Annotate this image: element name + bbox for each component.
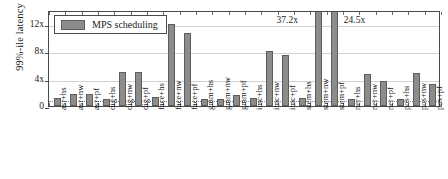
- x-tick-label: imc+hs: [255, 85, 264, 110]
- x-tick-label: stem+nw: [321, 78, 330, 110]
- x-tick-label: stem+hs: [304, 81, 313, 110]
- x-tick-label: ner+hs: [353, 87, 362, 110]
- y-tick: [45, 108, 49, 109]
- y-tick-label: 12x: [0, 20, 44, 30]
- legend: MPS scheduling: [54, 15, 167, 34]
- x-tick-label: dig+pf: [141, 87, 150, 110]
- x-tick-label: pos+pf: [435, 86, 444, 110]
- x-tick-label: asr+hs: [59, 87, 68, 110]
- bar-value-annotation: 37.2x: [277, 15, 298, 25]
- x-tick-label: gmm+nw: [223, 77, 232, 110]
- x-tick-label: imc+nw: [272, 82, 281, 110]
- x-tick-label: dig+nw: [125, 84, 134, 110]
- x-tick-label: ner+pf: [386, 87, 395, 110]
- top-frame-tick: [441, 12, 442, 15]
- x-tick-label: gmm+hs: [206, 80, 215, 110]
- legend-label-mps: MPS scheduling: [92, 20, 158, 30]
- y-tick-label: 8x: [0, 47, 44, 57]
- x-tick-label: pos+hs: [402, 86, 411, 110]
- x-tick-label: asr+nw: [76, 85, 85, 110]
- x-tick-label: stem+pf: [337, 82, 346, 110]
- legend-swatch-mps: [61, 20, 85, 30]
- x-tick-label: dig+hs: [108, 87, 117, 110]
- y-tick-label: 4x: [0, 75, 44, 85]
- chart-figure: 99%-ile latency 04x8x12x 37.2x24.5x MPS …: [0, 0, 448, 179]
- x-tick-label: gmm+pf: [239, 80, 248, 110]
- x-tick-label: ner+nw: [370, 84, 379, 110]
- x-tick-label: face+nw: [174, 80, 183, 110]
- x-tick-label: face+hs: [157, 83, 166, 110]
- x-tick-label: asr+pf: [92, 88, 101, 110]
- x-tick-label: imc+pf: [288, 85, 297, 110]
- x-tick-label: face+pf: [190, 84, 199, 110]
- x-tick-label: pos+nw: [419, 83, 428, 110]
- bar-value-annotation: 24.5x: [344, 15, 365, 25]
- y-tick-label: 0: [0, 102, 44, 112]
